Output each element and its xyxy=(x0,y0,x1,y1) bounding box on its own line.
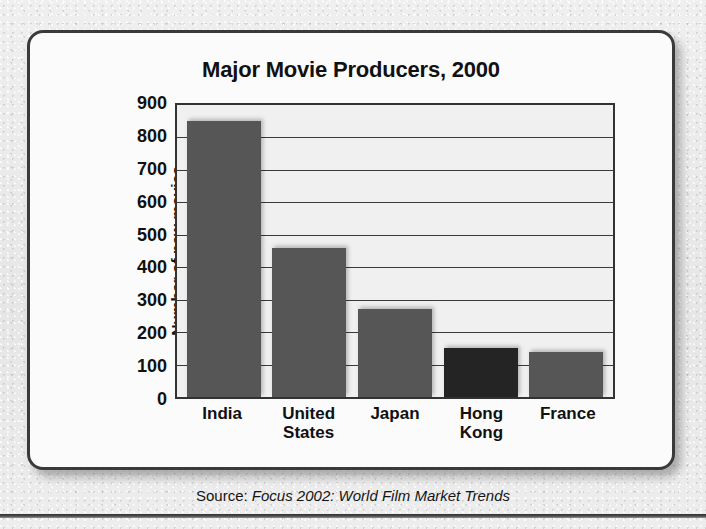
plot-area xyxy=(175,103,615,399)
bar-slot xyxy=(185,105,262,397)
bar-slot xyxy=(271,105,348,397)
y-tick-label: 0 xyxy=(117,389,167,410)
y-tick-label: 800 xyxy=(117,125,167,146)
y-tick-label: 100 xyxy=(117,356,167,377)
bar xyxy=(358,309,432,397)
x-axis-category-labels: IndiaUnited StatesJapanHong KongFrance xyxy=(175,405,615,442)
figure-card: Major Movie Producers, 2000 Number of ne… xyxy=(27,30,675,470)
page-background: Major Movie Producers, 2000 Number of ne… xyxy=(0,0,706,529)
x-axis-label: Japan xyxy=(356,405,434,442)
source-note: Source: Focus 2002: World Film Market Tr… xyxy=(0,487,706,504)
x-axis-label: France xyxy=(529,405,607,442)
bottom-rule xyxy=(0,514,706,518)
bar xyxy=(529,352,603,397)
x-axis-label: United States xyxy=(270,405,348,442)
y-axis-tick-labels: 9008007006005004003002001000 xyxy=(117,103,167,399)
y-tick-label: 400 xyxy=(117,257,167,278)
source-label: Source: xyxy=(196,487,252,504)
bar-slot xyxy=(442,105,519,397)
y-tick-label: 700 xyxy=(117,158,167,179)
y-tick-label: 500 xyxy=(117,224,167,245)
plot-area-wrapper: Number of new movies produced in 2000 90… xyxy=(175,103,615,399)
bar xyxy=(187,121,261,397)
y-tick-label: 300 xyxy=(117,290,167,311)
y-tick-label: 900 xyxy=(117,93,167,114)
chart-title: Major Movie Producers, 2000 xyxy=(30,57,672,83)
bar-series xyxy=(177,105,613,397)
bar xyxy=(444,348,518,397)
bar-slot xyxy=(356,105,433,397)
source-title: Focus 2002: World Film Market Trends xyxy=(252,487,510,504)
x-axis-label: India xyxy=(183,405,261,442)
y-tick-label: 600 xyxy=(117,191,167,212)
y-tick-label: 200 xyxy=(117,323,167,344)
x-axis-label: Hong Kong xyxy=(442,405,520,442)
bar-slot xyxy=(528,105,605,397)
bar xyxy=(272,248,346,397)
